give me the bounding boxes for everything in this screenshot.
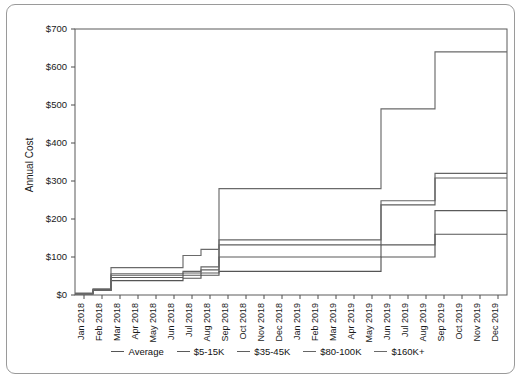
x-tick-label: Aug 2019 — [418, 303, 428, 342]
y-axis-title: Annual Cost — [24, 138, 35, 193]
series-line — [75, 211, 507, 294]
x-tick-label: Feb 2019 — [310, 303, 320, 341]
x-tick-label: Mar 2018 — [112, 303, 122, 341]
chart-legend: Average$5-15K$35-45K$80-100K$160K+ — [20, 346, 516, 357]
step-line-chart: $0$100$200$300$400$500$600$700 Jan 2018F… — [20, 15, 516, 345]
x-tick-label: Oct 2019 — [454, 303, 464, 340]
x-tick-label: Dec 2018 — [274, 303, 284, 342]
legend-label: Average — [128, 346, 163, 357]
legend-swatch-icon — [177, 351, 190, 352]
legend-label: $5-15K — [194, 346, 225, 357]
y-tick-label: $500 — [46, 99, 67, 110]
y-tick-label: $400 — [46, 137, 67, 148]
legend-item[interactable]: $160K+ — [374, 346, 424, 357]
x-tick-label: Feb 2018 — [94, 303, 104, 341]
x-tick-label: Nov 2019 — [472, 303, 482, 342]
legend-item[interactable]: Average — [111, 346, 163, 357]
x-tick-label: Apr 2018 — [130, 303, 140, 340]
y-tick-label: $600 — [46, 61, 67, 72]
y-axis-ticks — [71, 29, 75, 295]
legend-swatch-icon — [374, 351, 387, 352]
plot-area-border — [75, 29, 507, 295]
legend-swatch-icon — [303, 351, 316, 352]
x-tick-label: May 2018 — [148, 303, 158, 343]
y-tick-label: $700 — [46, 23, 67, 34]
legend-item[interactable]: $80-100K — [303, 346, 361, 357]
legend-item[interactable]: $35-45K — [237, 346, 290, 357]
x-tick-label: Jan 2019 — [292, 303, 302, 340]
x-tick-label: Apr 2019 — [346, 303, 356, 340]
x-tick-label: Oct 2018 — [238, 303, 248, 340]
x-tick-label: Sep 2018 — [220, 303, 230, 342]
x-axis-tick-labels: Jan 2018Feb 2018Mar 2018Apr 2018May 2018… — [76, 303, 500, 343]
series-line — [75, 178, 507, 294]
legend-swatch-icon — [237, 351, 250, 352]
x-tick-label: Aug 2018 — [202, 303, 212, 342]
data-series-group — [75, 52, 507, 294]
x-tick-label: Jun 2018 — [166, 303, 176, 340]
legend-label: $160K+ — [391, 346, 424, 357]
series-line — [75, 234, 507, 293]
x-tick-label: Jun 2019 — [382, 303, 392, 340]
x-tick-label: Jul 2019 — [400, 303, 410, 337]
x-tick-label: May 2019 — [364, 303, 374, 343]
chart-container: $0$100$200$300$400$500$600$700 Jan 2018F… — [20, 15, 516, 365]
x-tick-label: Jan 2018 — [76, 303, 86, 340]
x-axis-ticks — [84, 295, 498, 299]
x-tick-label: Sep 2019 — [436, 303, 446, 342]
y-axis-tick-labels: $0$100$200$300$400$500$600$700 — [46, 23, 67, 300]
chart-card-frame: $0$100$200$300$400$500$600$700 Jan 2018F… — [6, 4, 515, 374]
legend-label: $80-100K — [320, 346, 361, 357]
legend-swatch-icon — [111, 351, 124, 352]
x-tick-label: Mar 2019 — [328, 303, 338, 341]
y-tick-label: $200 — [46, 213, 67, 224]
legend-item[interactable]: $5-15K — [177, 346, 225, 357]
x-tick-label: Dec 2019 — [490, 303, 500, 342]
y-tick-label: $300 — [46, 175, 67, 186]
y-tick-label: $0 — [56, 289, 67, 300]
y-tick-label: $100 — [46, 251, 67, 262]
x-tick-label: Jul 2018 — [184, 303, 194, 337]
legend-label: $35-45K — [254, 346, 290, 357]
x-tick-label: Nov 2018 — [256, 303, 266, 342]
